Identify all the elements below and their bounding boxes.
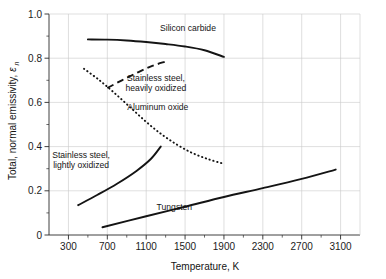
x-tick-label: 3100 <box>329 241 352 252</box>
x-tick-label: 300 <box>60 241 77 252</box>
curve-label: Stainless steel, <box>52 150 110 160</box>
curve-label-line2: heavily oxidized <box>126 83 187 93</box>
y-axis-title-subscript: n <box>13 61 20 67</box>
y-axis-title: Total, normal emissivity, ε n <box>7 61 20 180</box>
curve-tungsten <box>102 170 335 228</box>
svg-text:Total, normal emissivity, ε n: Total, normal emissivity, ε n <box>7 61 20 180</box>
y-tick-label: 0.6 <box>28 97 42 108</box>
y-tick-label: 0.8 <box>28 53 42 64</box>
curve-label: Silicon carbide <box>160 23 216 33</box>
curve-label: Aluminum oxide <box>127 102 188 112</box>
curve-label: Tungsten <box>157 202 193 212</box>
y-axis-title-text: Total, normal emissivity, <box>7 72 18 180</box>
curve-label: Stainless steel, <box>127 73 185 83</box>
x-tick-label: 2300 <box>252 241 275 252</box>
curve-label-line2: lightly oxidized <box>53 160 109 170</box>
chart-svg: 30070011001500190023002700310000.20.40.6… <box>0 0 386 279</box>
y-tick-label: 0.2 <box>28 185 42 196</box>
x-tick-label: 1900 <box>213 241 236 252</box>
x-tick-label: 1500 <box>174 241 197 252</box>
x-tick-label: 2700 <box>291 241 314 252</box>
y-tick-label: 1.0 <box>28 9 42 20</box>
tick-labels: 30070011001500190023002700310000.20.40.6… <box>28 9 352 252</box>
x-axis-title: Temperature, K <box>171 261 240 272</box>
x-tick-label: 1100 <box>135 241 157 252</box>
curve-silicon-carbide <box>88 39 224 56</box>
data-curves <box>78 39 336 227</box>
curve-annotations: Silicon carbideStainless steel,heavily o… <box>52 23 216 212</box>
y-tick-label: 0 <box>36 230 42 241</box>
x-axis-title-text: Temperature, K <box>171 261 240 272</box>
emissivity-chart-figure: 30070011001500190023002700310000.20.40.6… <box>0 0 386 279</box>
x-tick-label: 700 <box>99 241 116 252</box>
y-tick-label: 0.4 <box>28 141 42 152</box>
